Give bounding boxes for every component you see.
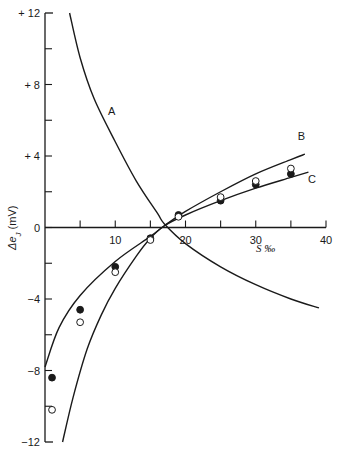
curve-label-b: B bbox=[298, 130, 305, 142]
chart: + 12+ 8+ 40−4−8−1210203040 ABC S ‰ ΔeJ (… bbox=[0, 0, 341, 457]
y-axis-title: ΔeJ (mV) bbox=[6, 206, 23, 251]
curve-label-a: A bbox=[108, 105, 116, 117]
x-axis-title: S ‰ bbox=[256, 242, 275, 254]
y-tick-label: −12 bbox=[21, 436, 40, 448]
y-tick-label: 0 bbox=[34, 222, 40, 234]
open-data-point bbox=[147, 237, 154, 244]
y-tick-label: −8 bbox=[27, 365, 40, 377]
x-tick-label: 10 bbox=[109, 234, 121, 246]
open-data-point bbox=[252, 178, 259, 185]
curve-label-c: C bbox=[308, 173, 316, 185]
open-data-point bbox=[77, 319, 84, 326]
y-axis-title-unit: (mV) bbox=[6, 206, 18, 233]
x-tick-label: 40 bbox=[320, 234, 332, 246]
curve-b bbox=[45, 154, 305, 367]
open-data-point bbox=[175, 213, 182, 220]
filled-data-point bbox=[49, 374, 56, 381]
curve-labels: ABC bbox=[108, 105, 316, 185]
curve-a bbox=[70, 13, 319, 308]
open-data-point bbox=[49, 406, 56, 413]
y-tick-label: + 4 bbox=[24, 150, 40, 162]
y-axis-title-symbol: Δe bbox=[6, 237, 18, 252]
open-data-point bbox=[112, 269, 119, 276]
open-data-point bbox=[287, 165, 294, 172]
y-tick-label: + 12 bbox=[18, 7, 40, 19]
curve-c bbox=[63, 172, 309, 442]
y-tick-label: + 8 bbox=[24, 79, 40, 91]
y-tick-label: −4 bbox=[27, 293, 40, 305]
filled-data-point bbox=[77, 306, 84, 313]
open-data-point bbox=[217, 194, 224, 201]
